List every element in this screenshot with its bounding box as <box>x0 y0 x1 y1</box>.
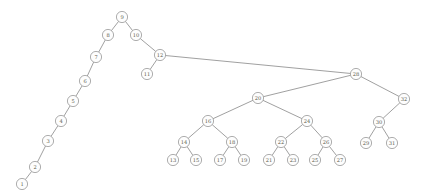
node-label: 17 <box>217 157 223 163</box>
tree-node[interactable]: 22 <box>275 136 286 147</box>
tree-node[interactable]: 26 <box>320 136 331 147</box>
tree-node[interactable]: 23 <box>287 154 298 165</box>
tree-edge <box>76 86 82 96</box>
tree-node[interactable]: 6 <box>79 75 90 86</box>
node-label: 10 <box>133 32 139 38</box>
tree-edge <box>272 147 278 156</box>
tree-node[interactable]: 11 <box>141 68 152 79</box>
tree-node[interactable]: 29 <box>360 137 371 148</box>
node-label: 28 <box>353 71 359 77</box>
node-label: 6 <box>83 78 86 84</box>
node-label: 2 <box>33 164 36 170</box>
node-label: 3 <box>46 138 49 144</box>
tree-node[interactable]: 27 <box>334 154 345 165</box>
node-label: 8 <box>106 32 109 38</box>
tree-edge <box>369 127 376 138</box>
tree-node[interactable]: 1 <box>16 178 27 189</box>
node-label: 26 <box>323 139 329 145</box>
tree-edge <box>51 126 58 137</box>
node-label: 7 <box>94 54 97 60</box>
tree-edge <box>140 39 155 52</box>
tree-edge <box>212 125 228 139</box>
tree-edge <box>223 147 229 156</box>
tree-diagram-canvas: 1234567891011121314151617181920212223242… <box>0 0 429 195</box>
tree-edge <box>263 100 302 118</box>
tree-node[interactable]: 7 <box>90 51 101 62</box>
tree-edge <box>188 125 204 139</box>
tree-edge <box>166 56 351 74</box>
node-label: 30 <box>376 119 382 125</box>
tree-edge <box>111 21 118 30</box>
tree-edge <box>318 147 323 155</box>
node-label: 20 <box>255 95 261 101</box>
tree-node[interactable]: 18 <box>226 136 237 147</box>
node-label: 22 <box>278 139 284 145</box>
node-label: 19 <box>241 157 247 163</box>
tree-edge <box>361 77 399 97</box>
tree-node[interactable]: 14 <box>178 136 189 147</box>
tree-node[interactable]: 3 <box>42 135 53 146</box>
tree-edge <box>176 147 181 155</box>
tree-node[interactable]: 4 <box>55 115 66 126</box>
tree-edge <box>311 125 322 138</box>
tree-node[interactable]: 12 <box>154 49 165 60</box>
tree-node[interactable]: 15 <box>190 154 201 165</box>
tree-edge <box>150 60 157 70</box>
tree-edge <box>99 40 106 52</box>
tree-node[interactable]: 28 <box>350 68 361 79</box>
tree-edge <box>25 171 31 179</box>
tree-node[interactable]: 16 <box>202 115 213 126</box>
tree-node[interactable]: 13 <box>167 154 178 165</box>
node-label: 11 <box>144 71 150 77</box>
tree-edge <box>125 21 132 30</box>
node-label: 24 <box>304 118 311 124</box>
tree-node[interactable]: 21 <box>263 154 274 165</box>
node-label: 15 <box>193 157 199 163</box>
tree-node[interactable]: 9 <box>116 11 127 22</box>
tree-edge <box>38 146 46 162</box>
node-label: 5 <box>71 98 74 104</box>
tree-edge <box>213 100 253 118</box>
tree-node[interactable]: 20 <box>252 92 263 103</box>
tree-edge <box>383 103 400 118</box>
tree-edge <box>285 125 302 139</box>
tree-node[interactable]: 8 <box>102 29 113 40</box>
tree-node[interactable]: 32 <box>398 93 409 104</box>
node-label: 9 <box>120 14 123 20</box>
tree-edge <box>87 62 93 76</box>
node-label: 29 <box>363 140 369 146</box>
tree-edge <box>64 106 70 116</box>
tree-edge <box>284 147 290 156</box>
node-label: 32 <box>401 96 407 102</box>
tree-edge <box>187 147 193 156</box>
tree-edge <box>329 146 336 155</box>
tree-node[interactable]: 17 <box>214 154 225 165</box>
node-label: 31 <box>389 140 395 146</box>
tree-node[interactable]: 30 <box>373 116 384 127</box>
node-label: 21 <box>266 157 272 163</box>
node-label: 18 <box>229 139 235 145</box>
node-label: 13 <box>170 157 176 163</box>
node-label: 27 <box>337 157 343 163</box>
node-label: 1 <box>20 181 23 187</box>
tree-node[interactable]: 5 <box>67 95 78 106</box>
tree-node[interactable]: 24 <box>301 115 312 126</box>
tree-edge <box>263 75 350 96</box>
tree-node[interactable]: 2 <box>29 161 40 172</box>
node-label: 16 <box>205 118 211 124</box>
node-label: 25 <box>312 157 318 163</box>
tree-edge <box>235 147 241 156</box>
node-label: 12 <box>157 52 163 58</box>
node-label: 14 <box>181 139 188 145</box>
node-layer: 1234567891011121314151617181920212223242… <box>16 11 409 189</box>
tree-edge <box>382 127 389 138</box>
tree-node[interactable]: 31 <box>386 137 397 148</box>
tree-node[interactable]: 10 <box>130 29 141 40</box>
tree-node[interactable]: 19 <box>238 154 249 165</box>
tree-node[interactable]: 25 <box>309 154 320 165</box>
node-label: 23 <box>290 157 296 163</box>
tree-graph: 1234567891011121314151617181920212223242… <box>0 0 429 195</box>
